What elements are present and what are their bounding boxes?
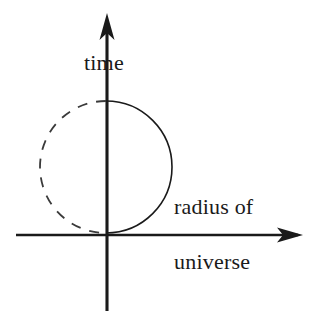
universe-circle-solid-half	[106, 101, 172, 233]
radius-axis-label-line2: universe	[174, 251, 250, 273]
spacetime-diagram: time radius of universe	[0, 0, 329, 327]
radius-axis	[16, 228, 303, 243]
universe-circle-dashed-half	[40, 101, 106, 233]
radius-axis-label-line1: radius of	[174, 196, 253, 218]
time-axis-label: time	[84, 52, 124, 74]
diagram-canvas	[0, 0, 329, 327]
